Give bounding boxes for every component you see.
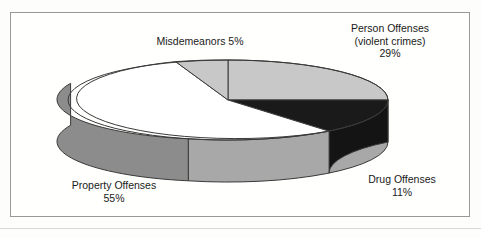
- slice-label-property-offenses: Property Offenses 55%: [38, 179, 190, 204]
- slice-label-person-offenses: Person Offenses (violent crimes) 29%: [324, 22, 456, 60]
- slice-label-misdemeanors: Misdemeanors 5%: [122, 35, 278, 48]
- slice-label-person-offenses-line1: Person Offenses: [351, 22, 429, 34]
- chart-page: Person Offenses (violent crimes) 29% Mis…: [0, 0, 481, 237]
- slice-label-property-offenses-line1: Property Offenses: [72, 179, 156, 191]
- page-bottom-rule: [0, 228, 481, 229]
- slice-label-drug-offenses: Drug Offenses 11%: [336, 173, 468, 198]
- slice-top-person-offenses: [228, 60, 388, 100]
- slice-label-misdemeanors-text: Misdemeanors 5%: [157, 35, 244, 47]
- slice-value-drug-offenses: 11%: [336, 186, 468, 199]
- slice-value-person-offenses: 29%: [324, 47, 456, 60]
- slice-label-person-offenses-line2: (violent crimes): [354, 35, 425, 47]
- slice-value-property-offenses: 55%: [38, 192, 190, 205]
- slice-label-drug-offenses-line1: Drug Offenses: [368, 173, 436, 185]
